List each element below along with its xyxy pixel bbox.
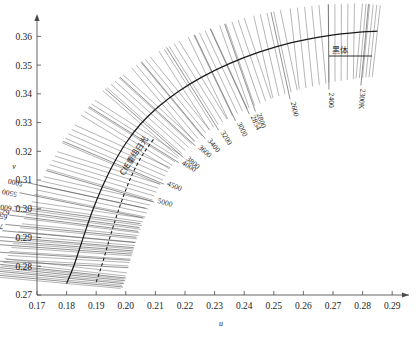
- x-tick-label: 0.23: [206, 301, 223, 311]
- x-tick-label: 0.20: [117, 301, 134, 311]
- x-tick-label: 0.19: [88, 301, 105, 311]
- x-tick-label: 0.21: [147, 301, 164, 311]
- y-axis-label: v: [12, 162, 16, 171]
- x-tick-label: 0.17: [29, 301, 46, 311]
- y-tick-label: 0.35: [15, 61, 32, 71]
- x-tick-label: 0.28: [354, 301, 371, 311]
- y-tick-label: 0.33: [15, 118, 32, 128]
- y-tick-label: 0.29: [15, 233, 32, 243]
- isotherm-label: 2400: [327, 93, 336, 108]
- chart-figure: 0.170.180.190.200.210.220.230.240.250.26…: [0, 0, 419, 347]
- y-tick-label: 0.34: [15, 89, 32, 99]
- x-tick-label: 0.25: [265, 301, 282, 311]
- y-tick-label: 0.30: [15, 204, 32, 214]
- y-tick-label: 0.32: [15, 147, 32, 157]
- x-tick-label: 0.27: [325, 301, 342, 311]
- y-tick-label: 0.28: [15, 262, 32, 272]
- x-tick-label: 0.24: [236, 301, 253, 311]
- y-tick-label: 0.36: [15, 32, 32, 42]
- x-tick-label: 0.22: [177, 301, 194, 311]
- x-tick-label: 0.29: [384, 301, 401, 311]
- y-tick-label: 0.27: [15, 290, 32, 300]
- x-tick-label: 0.18: [58, 301, 75, 311]
- x-axis-label: u: [219, 319, 223, 328]
- x-tick-label: 0.26: [295, 301, 312, 311]
- blackbody-locus-label: 黑体: [332, 45, 348, 55]
- cie-ucs-chromaticity-chart: 0.170.180.190.200.210.220.230.240.250.26…: [0, 0, 419, 347]
- isotherm-label: 7500: [0, 227, 1, 237]
